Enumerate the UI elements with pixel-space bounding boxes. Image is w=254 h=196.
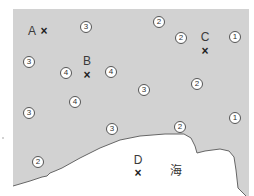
point-label-a: A: [28, 25, 36, 37]
circled-value: 1: [229, 112, 241, 124]
circled-value: 1: [229, 31, 241, 43]
circled-value: 4: [60, 67, 72, 79]
circled-value: 2: [175, 32, 187, 44]
point-label-b: B: [83, 55, 91, 67]
circled-value: 3: [23, 56, 35, 68]
cross-mark-icon: ×: [40, 25, 47, 37]
land-area: [13, 9, 249, 196]
circled-value: 2: [153, 16, 165, 28]
cross-mark-icon: ×: [83, 69, 90, 81]
margin-dot: [2, 137, 4, 139]
circled-value: 4: [105, 66, 117, 78]
point-label-d: D: [134, 154, 143, 166]
circled-value: 2: [191, 78, 203, 90]
cross-mark-icon: ×: [134, 167, 141, 179]
circled-value: 3: [80, 21, 92, 33]
circled-value: 3: [138, 84, 150, 96]
circled-value: 2: [174, 121, 186, 133]
circled-value: 4: [69, 96, 81, 108]
cross-mark-icon: ×: [201, 45, 208, 57]
circled-value: 2: [32, 156, 44, 168]
circled-value: 3: [106, 123, 118, 135]
sea-label: 海: [170, 165, 182, 177]
circled-value: 3: [23, 107, 35, 119]
point-label-c: C: [201, 31, 210, 43]
